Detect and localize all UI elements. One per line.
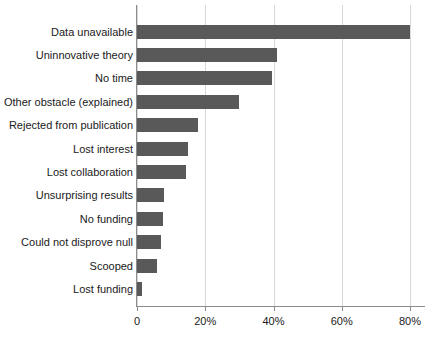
category-label: Could not disprove null (1, 236, 133, 248)
x-tick-label: 20% (194, 315, 216, 327)
bar-chart: 020%40%60%80% Data unavailableUninnovati… (0, 0, 435, 344)
category-label: Other obstacle (explained) (1, 96, 133, 108)
bar (137, 95, 239, 109)
category-label: Rejected from publication (1, 119, 133, 131)
bar (137, 188, 164, 202)
category-label: Lost funding (1, 283, 133, 295)
bar (137, 259, 157, 273)
y-axis-category-labels: Data unavailableUninnovative theoryNo ti… (0, 0, 133, 344)
bar (137, 212, 163, 226)
category-label: Uninnovative theory (1, 49, 133, 61)
x-tick-mark (342, 306, 343, 311)
category-label: Lost interest (1, 143, 133, 155)
bar (137, 48, 277, 62)
x-tick-label: 80% (399, 315, 421, 327)
gridline-3 (342, 5, 343, 306)
bar (137, 25, 410, 39)
category-label: No funding (1, 213, 133, 225)
category-label: No time (1, 72, 133, 84)
bar (137, 142, 188, 156)
x-tick-mark (137, 306, 138, 311)
x-tick-label: 40% (262, 315, 284, 327)
x-tick-mark (205, 306, 206, 311)
x-tick-label: 0 (134, 315, 140, 327)
bar (137, 282, 142, 296)
y-axis-line (136, 5, 137, 306)
x-tick-label: 60% (331, 315, 353, 327)
bar (137, 71, 272, 85)
bar (137, 235, 161, 249)
gridline-4 (410, 5, 411, 306)
bar (137, 165, 186, 179)
category-label: Data unavailable (1, 26, 133, 38)
category-label: Unsurprising results (1, 189, 133, 201)
x-tick-mark (410, 306, 411, 311)
x-tick-mark (274, 306, 275, 311)
category-label: Lost collaboration (1, 166, 133, 178)
plot-area (137, 5, 425, 306)
x-axis-line (136, 306, 425, 307)
category-label: Scooped (1, 260, 133, 272)
bar (137, 118, 198, 132)
